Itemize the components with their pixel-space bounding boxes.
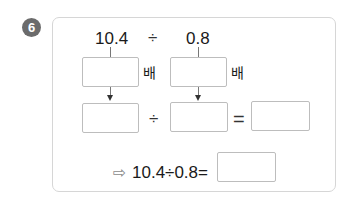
times-label-2: 배 bbox=[231, 66, 244, 80]
dividend-value: 10.4 bbox=[95, 30, 128, 47]
multiplier-input-1[interactable] bbox=[82, 57, 139, 87]
connector-line-dividend bbox=[110, 47, 111, 57]
quotient-input[interactable] bbox=[251, 101, 310, 131]
connector-line-divisor bbox=[198, 47, 199, 57]
down-arrow-icon bbox=[107, 95, 113, 101]
division-sign-top: ÷ bbox=[148, 29, 157, 46]
division-sign-bottom: ÷ bbox=[149, 110, 158, 127]
new-dividend-input[interactable] bbox=[82, 103, 139, 133]
multiplier-input-2[interactable] bbox=[170, 57, 227, 87]
times-label-1: 배 bbox=[143, 66, 156, 80]
conclusion-expression: 10.4÷0.8= bbox=[132, 164, 208, 181]
down-arrow-icon bbox=[195, 95, 201, 101]
divisor-value: 0.8 bbox=[186, 30, 210, 47]
problem-number-badge: 6 bbox=[22, 18, 41, 37]
conclusion-arrow-icon: ⇨ bbox=[113, 165, 126, 181]
equals-sign: = bbox=[233, 109, 245, 129]
new-divisor-input[interactable] bbox=[170, 102, 228, 132]
worksheet-problem: 6 10.4 ÷ 0.8 배 배 ÷ = ⇨ 10.4÷0.8= bbox=[0, 0, 356, 200]
final-answer-input[interactable] bbox=[217, 152, 276, 182]
